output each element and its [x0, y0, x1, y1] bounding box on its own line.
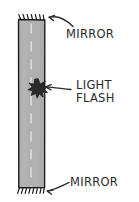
hatch-mark: [43, 188, 44, 193]
hatch-mark: [43, 15, 44, 20]
column-edge-shading: [40, 21, 44, 186]
column-shading: [22, 21, 27, 186]
light-clock-diagram: MIRROR LIGHT FLASH MIRROR: [0, 0, 139, 202]
mirror-top-label: MIRROR: [66, 27, 114, 41]
light-flash-label-line1: LIGHT: [76, 78, 113, 92]
mirror-bottom-label: MIRROR: [70, 175, 118, 189]
light-flash-label-line2: FLASH: [76, 91, 115, 105]
diagram-canvas: MIRROR LIGHT FLASH MIRROR: [0, 0, 139, 202]
